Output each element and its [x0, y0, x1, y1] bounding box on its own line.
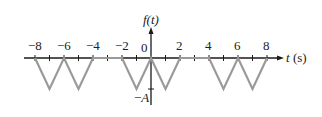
y-tick-label-neg-a: −A — [134, 90, 149, 105]
y-axis-label: f(t) — [143, 12, 159, 27]
tick-label-zero: 0 — [141, 40, 148, 55]
tick-label-neg8: −8 — [28, 38, 42, 53]
tick-label-2: 2 — [176, 38, 183, 53]
x-axis-label: t (s) — [286, 50, 307, 65]
chart: −8 −6 −4 −2 0 2 4 6 8 f(t) t (s) −A — [0, 0, 322, 117]
tick-label-6: 6 — [234, 38, 241, 53]
tick-label-neg2: −2 — [115, 38, 129, 53]
y-axis-arrow-icon — [149, 27, 154, 34]
tick-label-neg6: −6 — [57, 38, 71, 53]
x-axis-arrow-icon — [277, 56, 284, 61]
tick-label-8: 8 — [263, 38, 270, 53]
tick-label-neg4: −4 — [86, 38, 100, 53]
tick-label-4: 4 — [205, 38, 212, 53]
